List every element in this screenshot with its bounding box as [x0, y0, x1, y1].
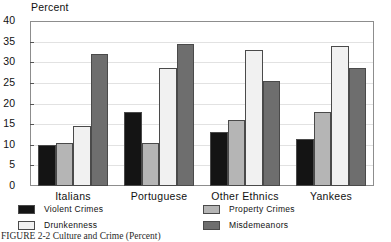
y-axis-tick-label: 15: [0, 118, 15, 128]
category-label: Yankees: [288, 190, 374, 202]
y-axis-tick-label: 35: [0, 36, 15, 46]
y-axis-tick-label: 40: [0, 15, 15, 25]
y-axis-tick-label: 5: [0, 159, 15, 169]
bar: [331, 46, 349, 186]
legend-label: Property Crimes: [229, 204, 295, 214]
bar: [314, 112, 332, 186]
gridline: [31, 42, 373, 43]
bar: [56, 143, 74, 186]
bar: [73, 126, 91, 186]
bar: [142, 143, 160, 186]
y-axis-tick-label: 25: [0, 77, 15, 87]
y-axis-tick-mark: [30, 124, 34, 125]
bar: [210, 132, 228, 186]
legend-label: Violent Crimes: [44, 204, 103, 214]
gridline: [31, 83, 373, 84]
y-axis-title: Percent: [31, 1, 69, 13]
y-axis-tick-label: 30: [0, 56, 15, 66]
bar: [228, 120, 246, 186]
gridline: [31, 62, 373, 63]
y-axis-tick-mark: [30, 42, 34, 43]
bar: [91, 54, 109, 186]
bar: [124, 112, 142, 186]
legend-swatch-drunk: [18, 221, 35, 230]
bar: [159, 68, 177, 186]
y-axis-tick-mark: [30, 165, 34, 166]
legend-swatch-violent: [18, 205, 35, 214]
category-label: Italians: [30, 190, 116, 202]
y-axis-tick-mark: [30, 83, 34, 84]
gridline: [31, 104, 373, 105]
bar: [263, 81, 281, 186]
y-axis-tick-mark: [30, 62, 34, 63]
bar: [349, 68, 367, 186]
bar: [296, 139, 314, 186]
bar: [177, 44, 195, 186]
legend-label: Drunkenness: [44, 220, 97, 230]
y-axis-tick-label: 20: [0, 98, 15, 108]
figure-caption: FIGURE 2-2 Culture and Crime (Percent): [1, 231, 161, 241]
legend-swatch-property: [203, 205, 220, 214]
category-label: Portuguese: [116, 190, 202, 202]
figure-container: Percent 4035302520151050 ItaliansPortugu…: [0, 0, 391, 242]
y-axis-tick-mark: [30, 145, 34, 146]
y-axis-tick-label: 10: [0, 139, 15, 149]
y-axis-tick-label: 0: [0, 180, 15, 190]
legend-label: Misdemeanors: [229, 220, 288, 230]
legend-swatch-misd: [203, 221, 220, 230]
category-label: Other Ethnics: [202, 190, 288, 202]
bar: [38, 145, 56, 186]
y-axis-tick-mark: [30, 104, 34, 105]
bar: [245, 50, 263, 186]
